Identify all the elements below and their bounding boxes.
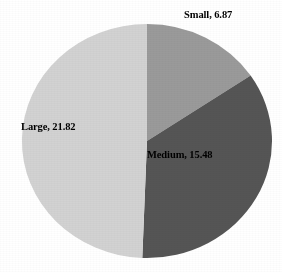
pie-label-medium: Medium, 15.48 bbox=[147, 149, 213, 161]
pie-chart: Small, 6.87 Medium, 15.48 Large, 21.82 bbox=[0, 0, 282, 272]
pie-slices bbox=[22, 24, 272, 258]
pie-label-small: Small, 6.87 bbox=[184, 9, 232, 21]
pie-slice-large[interactable] bbox=[22, 24, 147, 258]
pie-chart-canvas bbox=[0, 0, 282, 272]
pie-label-large: Large, 21.82 bbox=[21, 121, 76, 133]
